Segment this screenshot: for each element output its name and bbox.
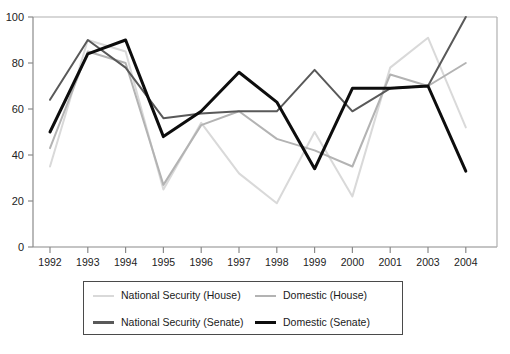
legend-label: National Security (Senate)	[121, 317, 244, 328]
x-axis-tick-labels: 1992199319941995199619971998199920002001…	[38, 256, 477, 268]
series-line	[50, 38, 466, 204]
x-tick-label: 1998	[265, 256, 289, 268]
y-axis-tick-labels: 020406080100	[6, 11, 24, 253]
x-tick-label: 1992	[38, 256, 62, 268]
legend-entry-domestic-house: Domestic (House)	[246, 290, 404, 301]
x-tick-label: 1999	[303, 256, 327, 268]
y-axis-ticks	[28, 17, 33, 247]
legend-label: National Security (House)	[121, 290, 241, 301]
legend-entry-national-security-house: National Security (House)	[84, 290, 246, 301]
line-chart-figure: 020406080100 199219931994199519961997199…	[0, 0, 510, 354]
x-tick-label: 2001	[379, 256, 403, 268]
legend-label: Domestic (Senate)	[283, 317, 370, 328]
x-tick-label: 1993	[76, 256, 100, 268]
legend-line-swatch-icon	[93, 295, 114, 297]
y-tick-label: 60	[12, 103, 24, 115]
x-tick-label: 2000	[341, 256, 365, 268]
y-tick-label: 20	[12, 195, 24, 207]
x-tick-label: 2004	[454, 256, 478, 268]
series-line	[50, 52, 466, 185]
y-tick-label: 100	[6, 11, 24, 23]
x-tick-label: 2003	[416, 256, 440, 268]
legend-entry-domestic-senate: Domestic (Senate)	[246, 317, 404, 328]
chart-series-lines	[50, 17, 466, 203]
x-tick-label: 1994	[114, 256, 138, 268]
x-axis-ticks	[50, 247, 466, 253]
y-tick-label: 0	[18, 241, 24, 253]
y-tick-label: 40	[12, 149, 24, 161]
x-tick-label: 1997	[227, 256, 251, 268]
x-tick-label: 1996	[190, 256, 214, 268]
series-line	[50, 17, 466, 118]
legend-label: Domestic (House)	[283, 290, 367, 301]
legend-entry-national-security-senate: National Security (Senate)	[84, 317, 246, 328]
legend-line-swatch-icon	[255, 321, 276, 324]
x-tick-label: 1995	[152, 256, 176, 268]
y-tick-label: 80	[12, 57, 24, 69]
legend-line-swatch-icon	[255, 295, 276, 297]
chart-legend: National Security (House) Domestic (Hous…	[83, 281, 403, 335]
legend-line-swatch-icon	[93, 321, 114, 324]
